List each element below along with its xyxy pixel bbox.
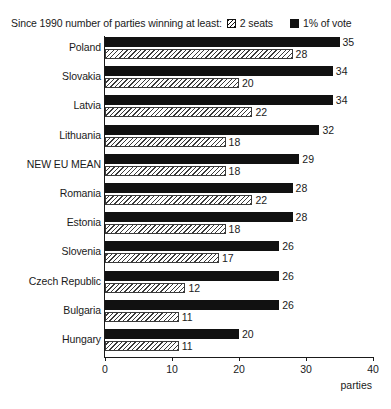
bar-value-label: 22	[255, 195, 267, 205]
bar-value-label: 20	[242, 78, 254, 88]
x-axis-tick-label: 0	[102, 363, 108, 375]
bar-group: Czech Republic2612	[0, 270, 391, 298]
legend-prompt: Since 1990 number of parties winning at …	[11, 17, 222, 29]
bar-vote	[105, 241, 279, 251]
chart-legend: Since 1990 number of parties winning at …	[11, 16, 352, 30]
x-axis-tick	[239, 357, 240, 361]
bar-value-label: 29	[302, 154, 314, 164]
y-axis-line	[104, 36, 105, 358]
bar-vote	[105, 95, 333, 105]
bar-value-label: 34	[336, 66, 348, 76]
bar-value-label: 28	[296, 183, 308, 193]
bar-value-label: 32	[322, 125, 334, 135]
x-axis-tick-label: 10	[166, 363, 178, 375]
bar-vote	[105, 300, 279, 310]
hatched-square-icon	[227, 19, 236, 28]
x-axis: parties 010203040	[0, 357, 391, 409]
bar-vote	[105, 154, 299, 164]
bar-seats	[105, 137, 226, 147]
bar-group: NEW EU MEAN2918	[0, 153, 391, 181]
bar-group: Estonia2818	[0, 211, 391, 239]
category-label: Poland	[0, 41, 101, 53]
category-label: Hungary	[0, 333, 101, 345]
bar-vote	[105, 37, 340, 47]
bar-value-label: 18	[229, 166, 241, 176]
x-axis-tick	[105, 357, 106, 361]
bar-vote	[105, 125, 319, 135]
bar-vote	[105, 183, 293, 193]
legend-label-2-seats: 2 seats	[240, 17, 273, 29]
bar-group: Slovakia3420	[0, 65, 391, 93]
bar-seats	[105, 312, 179, 322]
x-axis-title: parties	[340, 379, 372, 391]
bar-group: Latvia3422	[0, 94, 391, 122]
x-axis-tick	[172, 357, 173, 361]
category-label: Lithuania	[0, 129, 101, 141]
bar-value-label: 26	[282, 300, 294, 310]
bar-group: Slovenia2617	[0, 240, 391, 268]
bar-value-label: 28	[296, 49, 308, 59]
bar-seats	[105, 283, 185, 293]
x-axis-tick-label: 20	[233, 363, 245, 375]
category-label: Czech Republic	[0, 275, 101, 287]
bar-seats	[105, 78, 239, 88]
category-label: Romania	[0, 187, 101, 199]
figure: Since 1990 number of parties winning at …	[0, 0, 391, 409]
x-axis-tick-label: 40	[367, 363, 379, 375]
bar-value-label: 26	[282, 241, 294, 251]
legend-entry-1-percent-of-vote: 1% of vote	[290, 17, 352, 29]
category-label: Slovakia	[0, 70, 101, 82]
category-label: Bulgaria	[0, 304, 101, 316]
category-label: Estonia	[0, 216, 101, 228]
bar-value-label: 11	[182, 312, 193, 322]
bar-group: Romania2822	[0, 182, 391, 210]
bar-seats	[105, 49, 293, 59]
bar-seats	[105, 224, 226, 234]
bar-vote	[105, 212, 293, 222]
bar-value-label: 22	[255, 107, 267, 117]
x-axis-tick	[373, 357, 374, 361]
legend-label-1-percent-of-vote: 1% of vote	[303, 17, 352, 29]
bar-group: Hungary2011	[0, 328, 391, 356]
bar-vote	[105, 329, 239, 339]
bar-seats	[105, 341, 179, 351]
bar-group: Lithuania3218	[0, 124, 391, 152]
bar-value-label: 11	[182, 341, 193, 351]
bar-value-label: 17	[222, 253, 234, 263]
bar-value-label: 18	[229, 137, 241, 147]
bar-value-label: 12	[188, 283, 200, 293]
x-axis-tick	[306, 357, 307, 361]
bar-seats	[105, 166, 226, 176]
legend-entry-2-seats: 2 seats	[227, 17, 273, 29]
bar-value-label: 34	[336, 95, 348, 105]
category-label: Latvia	[0, 99, 101, 111]
bar-seats	[105, 107, 252, 117]
bar-vote	[105, 271, 279, 281]
bar-value-label: 35	[343, 37, 355, 47]
bar-seats	[105, 195, 252, 205]
x-axis-tick-label: 30	[300, 363, 312, 375]
bar-value-label: 18	[229, 224, 241, 234]
bar-value-label: 28	[296, 212, 308, 222]
filled-square-icon	[290, 19, 299, 28]
bar-vote	[105, 66, 333, 76]
bar-group: Bulgaria2611	[0, 299, 391, 327]
plot-area: Poland3528Slovakia3420Latvia3422Lithuani…	[0, 36, 391, 366]
bar-value-label: 20	[242, 329, 254, 339]
category-label: NEW EU MEAN	[0, 158, 101, 170]
category-label: Slovenia	[0, 245, 101, 257]
bar-seats	[105, 253, 219, 263]
bar-group: Poland3528	[0, 36, 391, 64]
bar-value-label: 26	[282, 271, 294, 281]
